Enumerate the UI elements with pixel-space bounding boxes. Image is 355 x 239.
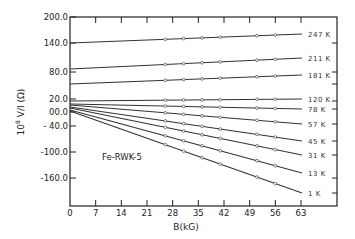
data-marker [274, 164, 277, 167]
data-marker [164, 79, 167, 82]
y-tick-label: 80.0 [49, 67, 68, 77]
data-marker [182, 99, 185, 102]
data-marker [274, 148, 277, 151]
series-label: 31 K [308, 152, 326, 160]
x-axis-title: B(kG) [173, 222, 198, 232]
y-axis: 200.0140.080.020.000.0- 40.0-100.0-160.0 [41, 12, 76, 183]
x-tick-label: 42 [219, 208, 230, 218]
data-marker [256, 119, 259, 122]
x-tick-label: 14 [116, 208, 127, 218]
data-marker [164, 120, 167, 123]
data-marker [274, 136, 277, 139]
series-line [70, 110, 302, 173]
data-marker [182, 78, 185, 81]
series-label: 247 K [308, 31, 331, 39]
series-line [70, 75, 302, 84]
data-marker [274, 182, 277, 185]
data-marker [219, 36, 222, 39]
series-label: 57 K [308, 121, 326, 129]
data-marker [164, 99, 167, 102]
series-line [70, 34, 302, 43]
series-label: 181 K [308, 72, 331, 80]
series-label: 78 K [308, 106, 326, 114]
data-marker [201, 77, 204, 80]
series-line [70, 107, 302, 141]
x-tick-label: 0 [67, 208, 72, 218]
data-marker [201, 105, 204, 108]
data-marker [201, 61, 204, 64]
data-marker [201, 133, 204, 136]
x-tick-label: 21 [142, 208, 153, 218]
series-label: 45 K [308, 138, 326, 146]
data-marker [201, 144, 204, 147]
data-marker [219, 128, 222, 131]
data-marker [182, 139, 185, 142]
plot-border [70, 17, 337, 206]
series-line [70, 99, 302, 101]
data-marker [164, 126, 167, 129]
data-marker [164, 143, 167, 146]
data-marker [182, 105, 185, 108]
data-marker [182, 122, 185, 125]
series-label: 13 K [308, 170, 326, 178]
data-marker [201, 125, 204, 128]
data-marker [182, 37, 185, 40]
data-marker [201, 114, 204, 117]
series-line [70, 58, 302, 69]
data-marker [201, 98, 204, 101]
y-tick-label: 200.0 [44, 12, 68, 22]
data-marker [256, 34, 259, 37]
x-tick-label: 63 [296, 208, 307, 218]
x-tick-label: 7 [93, 208, 98, 218]
chart: 071421283542495663 200.0140.080.020.000.… [0, 0, 355, 239]
x-tick-label: 49 [244, 208, 255, 218]
y-tick-label: -100.0 [41, 147, 68, 157]
data-marker [164, 134, 167, 137]
data-marker [219, 149, 222, 152]
data-marker [219, 137, 222, 140]
sample-annotation: Fe-RWK-5 [102, 152, 142, 162]
data-marker [256, 75, 259, 78]
y-axis-title: 108 V/I (Ω) [14, 89, 26, 136]
x-tick-label: 56 [270, 208, 281, 218]
data-marker [274, 75, 277, 78]
data-marker [256, 144, 259, 147]
plot-frame [70, 17, 337, 206]
data-marker [201, 36, 204, 39]
data-marker [164, 105, 167, 108]
data-marker [182, 62, 185, 65]
data-marker [219, 77, 222, 80]
data-marker [219, 106, 222, 109]
data-marker [219, 116, 222, 119]
data-marker [219, 98, 222, 101]
series-label: 120 K [308, 96, 331, 104]
x-tick-label: 35 [193, 208, 204, 218]
data-marker [256, 98, 259, 101]
series-labels: 247 K211 K181 K120 K78 K57 K45 K31 K13 K… [308, 31, 331, 198]
data-marker [164, 111, 167, 114]
data-marker [274, 58, 277, 61]
data-marker [274, 34, 277, 37]
x-axis: 071421283542495663 [67, 17, 306, 218]
data-marker [182, 113, 185, 116]
series-label: 1 K [308, 190, 321, 198]
data-marker [219, 60, 222, 63]
data-marker [256, 107, 259, 110]
data-marker [182, 150, 185, 153]
y-tick-label: 00.0 [49, 107, 68, 117]
series-label: 211 K [308, 55, 331, 63]
y-tick-label: - 40.0 [43, 121, 68, 131]
data-marker [274, 98, 277, 101]
series-lines [70, 34, 302, 193]
x-tick-label: 28 [167, 208, 178, 218]
data-marker [201, 156, 204, 159]
data-marker [256, 176, 259, 179]
data-marker [256, 59, 259, 62]
data-marker [256, 159, 259, 162]
data-marker [164, 63, 167, 66]
data-marker [274, 107, 277, 110]
data-marker [274, 120, 277, 123]
data-marker [256, 133, 259, 136]
y-tick-label: 140.0 [44, 38, 68, 48]
data-marker [182, 130, 185, 133]
